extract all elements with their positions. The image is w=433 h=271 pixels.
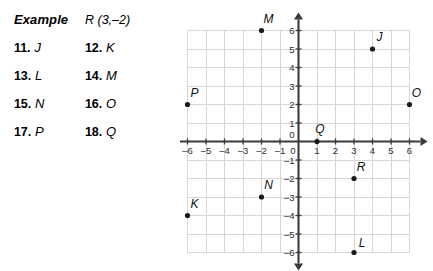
exercise-row: 13.L 14.M	[0, 64, 180, 88]
exercise-row: 17.P 18.Q	[0, 120, 180, 144]
exercise-label: N	[35, 96, 44, 111]
exercise-label: K	[106, 40, 115, 55]
example-title: Example	[14, 12, 68, 27]
point-label: P	[190, 86, 198, 100]
exercise-item-12[interactable]: 12.K	[85, 36, 115, 60]
origin-label: 0	[289, 129, 294, 140]
exercise-label: Q	[106, 124, 116, 139]
point-label: L	[359, 236, 366, 250]
point-dot	[259, 28, 264, 33]
y-axis-arrow-down	[294, 264, 303, 271]
coordinate-plane-svg: –6–5–4–3–2–10123456 654321–1–2–3–4–5–60 …	[180, 0, 433, 271]
worksheet-page: Example R (3,–2) 11.J 12.K 13.L 14.M	[0, 0, 433, 271]
x-tick-label: 1	[314, 145, 319, 156]
exercise-item-14[interactable]: 14.M	[85, 64, 117, 88]
exercise-item-11[interactable]: 11.J	[14, 36, 41, 60]
exercise-number: 16.	[85, 97, 102, 111]
point-label: R	[357, 160, 366, 174]
exercise-item-13[interactable]: 13.L	[14, 64, 42, 88]
point-label: K	[190, 197, 199, 211]
exercise-item-15[interactable]: 15.N	[14, 92, 44, 116]
exercise-item-16[interactable]: 16.O	[85, 92, 116, 116]
point-label: J	[376, 30, 384, 44]
point-dot	[351, 176, 356, 181]
point-label: Q	[315, 122, 324, 136]
point-dot	[314, 139, 319, 144]
exercise-number: 14.	[85, 69, 102, 83]
exercise-label: L	[35, 68, 42, 83]
exercise-label: J	[34, 40, 41, 55]
x-tick-label: –3	[238, 145, 249, 156]
exercise-list: Example R (3,–2) 11.J 12.K 13.L 14.M	[0, 0, 180, 271]
x-tick-label: 4	[370, 145, 375, 156]
x-tick-label: 3	[351, 145, 356, 156]
y-tick-label: 3	[289, 81, 294, 92]
x-tick-label: 5	[388, 145, 393, 156]
plotted-point-j[interactable]: J	[370, 30, 384, 52]
x-tick-label: –6	[182, 145, 193, 156]
exercise-item-17[interactable]: 17.P	[14, 120, 44, 144]
point-label: O	[412, 86, 421, 100]
point-label: N	[264, 178, 273, 192]
example-value: R (3,–2)	[85, 13, 130, 27]
plotted-points: MJPOQRNKL	[185, 12, 421, 256]
y-tick-label: –2	[284, 173, 295, 184]
point-dot	[185, 213, 190, 218]
exercise-label: O	[106, 96, 116, 111]
example-header: Example	[14, 8, 68, 32]
exercise-number: 13.	[14, 69, 31, 83]
point-dot	[185, 102, 190, 107]
exercise-number: 17.	[14, 125, 31, 139]
exercise-number: 11.	[14, 41, 30, 55]
exercise-number: 15.	[14, 97, 31, 111]
exercise-row: 11.J 12.K	[0, 36, 180, 60]
x-tick-label: 2	[333, 145, 338, 156]
y-tick-label: 2	[289, 99, 294, 110]
x-tick-label: –4	[219, 145, 230, 156]
x-tick-label: –2	[256, 145, 267, 156]
example-value-cell: R (3,–2)	[85, 8, 130, 32]
y-tick-label: –6	[284, 247, 295, 258]
exercise-label: P	[35, 124, 44, 139]
y-tick-label: 6	[289, 25, 294, 36]
plotted-point-m[interactable]: M	[259, 12, 274, 34]
y-tick-label: –3	[284, 192, 295, 203]
exercise-number: 12.	[85, 41, 102, 55]
x-tick-label: 6	[407, 145, 412, 156]
x-axis-arrow-right	[421, 137, 428, 146]
exercise-row: 15.N 16.O	[0, 92, 180, 116]
exercise-label: M	[106, 68, 117, 83]
y-tick-label: –4	[284, 210, 295, 221]
plotted-point-p[interactable]: P	[185, 86, 199, 108]
point-label: M	[264, 12, 274, 26]
y-tick-label: 1	[289, 118, 294, 129]
point-dot	[370, 46, 375, 51]
y-tick-label: –1	[284, 155, 295, 166]
y-axis-arrow-up	[294, 13, 303, 20]
exercise-number: 18.	[85, 125, 102, 139]
exercise-item-18[interactable]: 18.Q	[85, 120, 116, 144]
x-tick-label: –5	[201, 145, 212, 156]
y-tick-label: 5	[289, 44, 294, 55]
exercise-header-row: Example R (3,–2)	[0, 8, 180, 32]
point-dot	[351, 250, 356, 255]
y-tick-label: 4	[289, 62, 294, 73]
coordinate-plane: –6–5–4–3–2–10123456 654321–1–2–3–4–5–60 …	[180, 0, 433, 271]
y-tick-label: –5	[284, 229, 295, 240]
point-dot	[259, 194, 264, 199]
point-dot	[407, 102, 412, 107]
